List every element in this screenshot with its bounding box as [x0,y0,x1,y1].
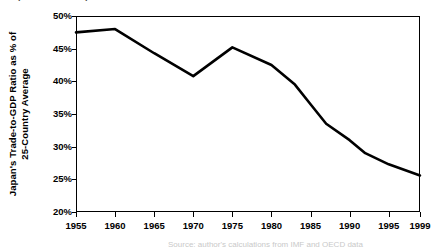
x-tick-label: 1960 [95,220,135,231]
x-tick-mark [311,212,312,217]
y-tick-label: 50% [38,11,72,21]
x-tick-mark [115,212,116,217]
y-axis-title-line-1: Japan's Trade-to-GDP Ratio as % of [7,32,19,196]
x-tick-label: 1999 [400,220,437,231]
series-polyline [76,29,420,175]
y-axis-title-line-2: 25-Country Average [19,68,31,159]
clipped-chart-title: Japanese Trade Openness [8,0,428,3]
y-tick-label: 20% [38,207,72,217]
x-tick-mark [420,212,421,217]
x-tick-mark [76,212,77,217]
y-tick-label: 25% [38,174,72,184]
x-tick-mark [232,212,233,217]
y-tick-label: 30% [38,142,72,152]
x-tick-mark [350,212,351,217]
x-tick-mark [193,212,194,217]
x-tick-label: 1975 [212,220,252,231]
x-axis-tick-group: 1955196019651970197519801985199019951999 [76,212,420,236]
x-tick-label: 1990 [330,220,370,231]
y-tick-label: 45% [38,44,72,54]
x-tick-label: 1965 [134,220,174,231]
x-tick-label: 1980 [251,220,291,231]
line-series [76,16,420,212]
plot-area [76,16,420,212]
y-tick-label: 35% [38,109,72,119]
clipped-caption: Source: author's calculations from IMF a… [168,240,437,247]
x-tick-mark [154,212,155,217]
x-tick-label: 1970 [173,220,213,231]
y-axis-title: Japan's Trade-to-GDP Ratio as % of 25-Co… [2,9,36,219]
x-tick-label: 1985 [291,220,331,231]
y-axis-tick-group: 20%25%30%35%40%45%50% [34,16,72,212]
x-tick-mark [271,212,272,217]
x-tick-mark [389,212,390,217]
x-tick-label: 1955 [56,220,96,231]
y-tick-label: 40% [38,76,72,86]
